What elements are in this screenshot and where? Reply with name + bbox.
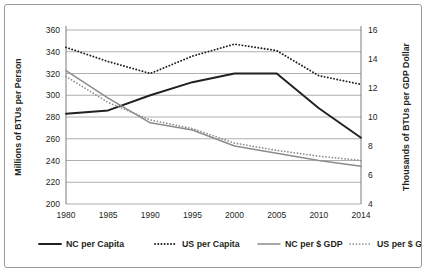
series-line-3 [66, 76, 361, 160]
y2-axis-tick-label: 16 [368, 25, 378, 35]
y-axis-tick-label: 280 [46, 112, 60, 122]
y-axis-tick-label: 240 [46, 156, 60, 166]
x-axis-tick-label: 2000 [225, 210, 244, 220]
y-axis-tick-label: 300 [46, 90, 60, 100]
legend-label-2: NC per $ GDP [285, 239, 343, 249]
y-axis-tick-label: 220 [46, 177, 60, 187]
x-axis-tick-label: 1985 [99, 210, 118, 220]
y-axis-title: Millions of BTUs per Person [13, 58, 23, 175]
x-axis-tick-label: 2005 [267, 210, 286, 220]
series-line-0 [66, 74, 361, 138]
legend-label-1: US per Capita [182, 239, 240, 249]
line-chart: 2002202402602803003203403604681012141619… [5, 5, 421, 267]
y2-axis-tick-label: 14 [368, 54, 378, 64]
legend-label-0: NC per Capita [66, 239, 124, 249]
series-line-2 [66, 71, 361, 167]
y-axis-tick-label: 340 [46, 47, 60, 57]
y2-axis-tick-label: 12 [368, 83, 378, 93]
x-axis-tick-label: 2014 [352, 210, 371, 220]
y-axis-tick-label: 320 [46, 69, 60, 79]
y2-axis-title: Thousands of BTUs per GDP Dollar [401, 42, 411, 191]
y-axis-tick-label: 360 [46, 25, 60, 35]
chart-panel: 2002202402602803003203403604681012141619… [4, 4, 422, 268]
x-axis-tick-label: 1990 [141, 210, 160, 220]
legend-label-3: US per $ GDP [377, 239, 421, 249]
x-axis-tick-label: 1995 [183, 210, 202, 220]
x-axis-tick-label: 2010 [309, 210, 328, 220]
y2-axis-tick-label: 8 [368, 141, 373, 151]
y-axis-tick-label: 260 [46, 134, 60, 144]
x-axis-tick-label: 1980 [57, 210, 76, 220]
y2-axis-tick-label: 10 [368, 112, 378, 122]
y2-axis-tick-label: 6 [368, 170, 373, 180]
y-axis-tick-label: 200 [46, 199, 60, 209]
y2-axis-tick-label: 4 [368, 199, 373, 209]
